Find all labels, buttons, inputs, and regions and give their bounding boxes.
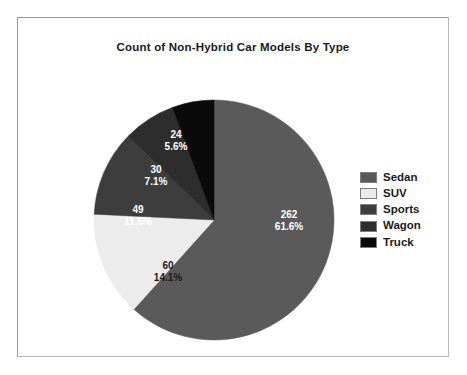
legend-item-label: Truck <box>383 237 414 249</box>
legend-item-sports[interactable]: Sports <box>360 202 421 217</box>
legend-item-label: Wagon <box>383 220 421 232</box>
legend-item-truck[interactable]: Truck <box>360 235 421 250</box>
legend-item-label: Sports <box>383 204 419 216</box>
legend-item-suv[interactable]: SUV <box>360 186 421 201</box>
legend-item-label: SUV <box>383 188 407 200</box>
legend-swatch-icon <box>360 188 377 199</box>
legend-item-wagon[interactable]: Wagon <box>360 219 421 234</box>
legend-item-label: Sedan <box>383 172 418 184</box>
legend-swatch-icon <box>360 172 377 183</box>
legend-item-sedan[interactable]: Sedan <box>360 170 421 185</box>
chart-frame: Count of Non-Hybrid Car Models By Type 2… <box>17 17 449 357</box>
legend-swatch-icon <box>360 237 377 248</box>
legend-swatch-icon <box>360 221 377 232</box>
legend-swatch-icon <box>360 204 377 215</box>
chart-legend: SedanSUVSportsWagonTruck <box>360 170 421 251</box>
